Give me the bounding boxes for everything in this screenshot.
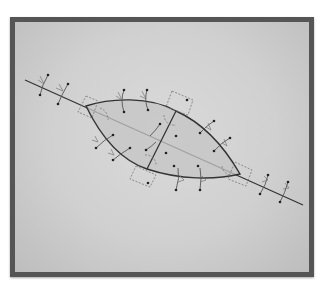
lens-diagram: [0, 0, 325, 287]
lens-shape: [86, 100, 240, 178]
